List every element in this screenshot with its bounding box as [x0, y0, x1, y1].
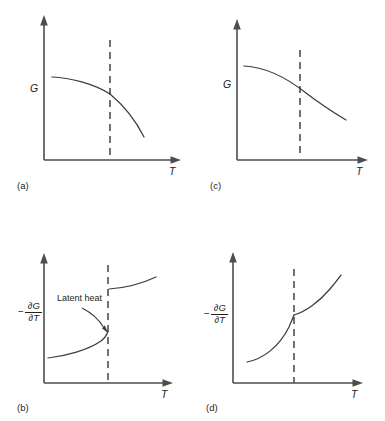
panel-c-label: (c) [210, 181, 221, 191]
panel-b-y-axis-fraction: ∂G ∂T [25, 301, 42, 324]
panel-d-curve-low-temp [247, 315, 294, 362]
panel-c-plot [193, 0, 385, 211]
phase-transition-figure: G T (a) G T (c) [0, 0, 385, 421]
latent-heat-arrow [82, 308, 104, 328]
panel-c-y-axis-arrowhead [233, 19, 241, 30]
panel-c-x-axis-arrowhead [358, 156, 369, 164]
panel-a-curve-low-temp [52, 77, 110, 94]
panel-a-y-axis-label: G [30, 83, 38, 94]
panel-b-y-axis-denominator: ∂T [28, 313, 41, 324]
panel-a-x-axis-label: T [169, 166, 176, 177]
panel-d-y-axis-arrowhead [229, 252, 237, 263]
panel-d-y-axis-denominator: ∂T [214, 315, 227, 326]
panel-d-y-axis-label: − ∂G ∂T [204, 303, 228, 326]
panel-b-x-axis-arrowhead [163, 379, 174, 387]
panel-b-y-axis-label: − ∂G ∂T [18, 301, 42, 324]
panel-a-plot [0, 0, 193, 211]
panel-d-y-axis-numerator: ∂G [213, 303, 227, 314]
panel-a-label: (a) [17, 181, 29, 191]
panel-c-x-axis-label: T [356, 166, 363, 177]
panel-c: G T (c) [193, 0, 385, 211]
panel-d-x-axis-label: T [351, 389, 358, 400]
panel-d-x-axis-arrowhead [353, 379, 364, 387]
panel-d-label: (d) [206, 403, 218, 413]
panel-a: G T (a) [0, 0, 193, 211]
panel-b-label: (b) [17, 403, 29, 413]
panel-d-y-axis-minus: − [204, 309, 210, 319]
panel-d: − ∂G ∂T T (d) [193, 211, 385, 421]
latent-heat-annotation: Latent heat [57, 294, 102, 303]
panel-b-x-axis-label: T [161, 389, 168, 400]
panel-b-curve-low-temp [48, 331, 108, 358]
panel-a-y-axis-arrowhead [40, 15, 48, 26]
panel-b-y-axis-minus: − [18, 307, 24, 317]
panel-a-curve-high-temp [110, 94, 144, 137]
panel-b-y-axis-arrowhead [40, 253, 48, 264]
panel-b-y-axis-numerator: ∂G [27, 301, 41, 312]
panel-d-curve-high-temp [294, 275, 341, 315]
panel-b: − ∂G ∂T Latent heat T (b) [0, 211, 193, 421]
panel-a-x-axis-arrowhead [171, 156, 182, 164]
panel-c-curve [244, 66, 346, 120]
panel-c-y-axis-label: G [223, 79, 231, 90]
panel-b-curve-high-temp [109, 277, 156, 289]
panel-d-y-axis-fraction: ∂G ∂T [211, 303, 228, 326]
